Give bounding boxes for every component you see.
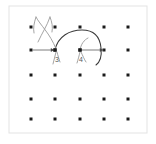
figure-frame — [9, 6, 147, 133]
grid-dot-r1-c5 — [127, 26, 130, 29]
grid-dot-r3-c2 — [54, 74, 57, 77]
grid-dot-r1-c2 — [54, 26, 57, 29]
grid-dot-r3-c5 — [127, 74, 130, 77]
grid-dot-r5-c5 — [127, 118, 130, 121]
grid-dot-r5-c1 — [30, 118, 33, 121]
grid-dot-r3-c1 — [30, 74, 33, 77]
grid-dot-r5-c3 — [79, 118, 82, 121]
crossing-node-4 — [78, 48, 81, 51]
grid-dot-r4-c2 — [54, 98, 57, 101]
diagram-canvas: 34 — [0, 0, 156, 144]
grid-dot-r1-c4 — [103, 26, 106, 29]
grid-dot-r4-c5 — [127, 98, 130, 101]
knot-diagram-svg: 34 — [0, 0, 156, 144]
crossing-node-3 — [53, 48, 56, 51]
grid-dot-r4-c4 — [103, 98, 106, 101]
grid-dot-r1-c1 — [30, 26, 33, 29]
grid-dot-r1-c3 — [79, 26, 82, 29]
grid-dot-r5-c4 — [103, 118, 106, 121]
grid-dot-r4-c1 — [30, 98, 33, 101]
grid-dot-r2-c5 — [127, 49, 130, 52]
grid-dot-r2-c1 — [30, 49, 33, 52]
crossing-label-4: 4 — [79, 56, 83, 63]
crossing-label-3: 3 — [55, 56, 59, 63]
grid-dot-r3-c3 — [79, 74, 82, 77]
grid-dot-r5-c2 — [54, 118, 57, 121]
grid-dot-r4-c3 — [79, 98, 82, 101]
grid-dot-r3-c4 — [103, 74, 106, 77]
